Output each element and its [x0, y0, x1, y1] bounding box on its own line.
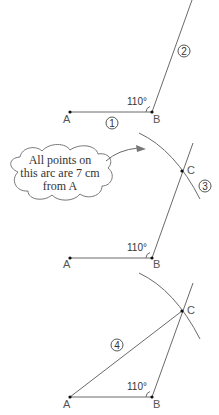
point-c: [180, 309, 183, 312]
point-c: [180, 169, 183, 172]
segment-ac: [70, 311, 182, 397]
label-c: C: [187, 304, 195, 316]
panel-step-4: A B C 110° 4: [63, 273, 200, 410]
construction-diagram: A B 110° 1 2 A B C 110° 3 All points on …: [0, 0, 219, 415]
angle-arc: [146, 107, 150, 113]
angle-arc: [146, 253, 150, 259]
panel-step-1-2: A B 110° 1 2: [63, 0, 192, 129]
callout-line-2: this arc are 7 cm: [20, 166, 100, 180]
angle-label: 110°: [127, 381, 147, 392]
callout-line-3: from A: [43, 179, 78, 193]
panel-step-3: A B C 110° 3 All points on this arc are …: [11, 133, 211, 270]
step-1-number: 1: [109, 118, 115, 129]
ray-from-b: [152, 143, 193, 258]
angle-arc: [146, 392, 150, 398]
label-a: A: [63, 398, 71, 410]
label-b: B: [153, 258, 160, 270]
arrowhead-icon: [136, 145, 146, 152]
step-4-number: 4: [114, 340, 120, 351]
callout-line-1: All points on: [29, 153, 92, 167]
label-c: C: [187, 164, 195, 176]
label-b: B: [153, 398, 160, 410]
label-a: A: [63, 258, 71, 270]
angle-label: 110°: [127, 242, 147, 253]
step-3-number: 3: [202, 181, 208, 192]
angle-label: 110°: [127, 96, 147, 107]
step-2-number: 2: [181, 46, 187, 57]
label-b: B: [153, 113, 160, 125]
ray-from-b: [152, 283, 193, 397]
label-a: A: [63, 113, 71, 125]
